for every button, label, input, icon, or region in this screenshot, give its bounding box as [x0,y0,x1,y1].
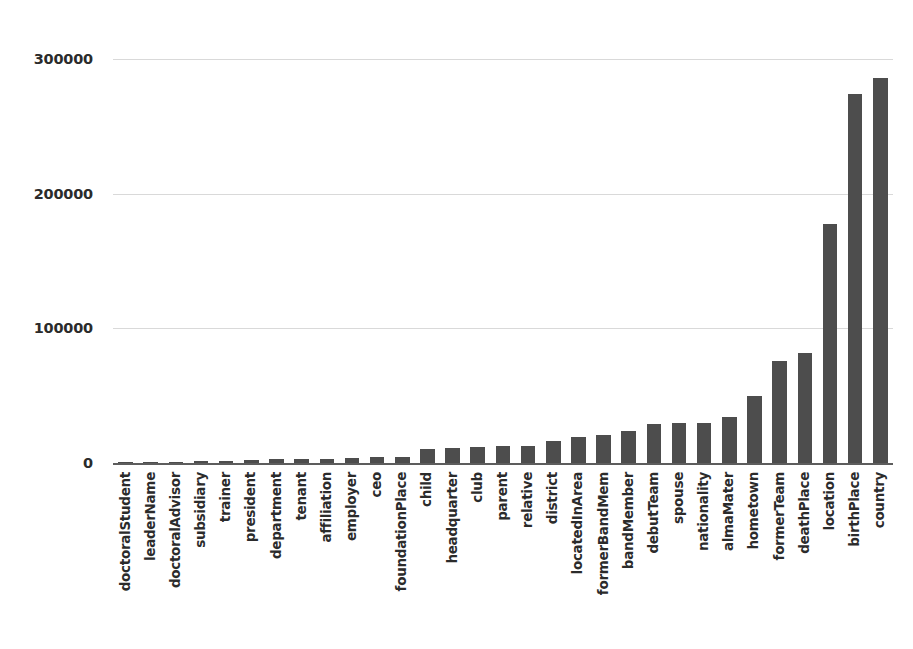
bar-slot [641,46,666,463]
bar-slot [666,46,691,463]
x-tick-label: ceo [370,472,384,498]
bar-deathPlace[interactable] [798,353,813,463]
bar-slot [390,46,415,463]
bar-slot [239,46,264,463]
x-tick-label: debutTeam [647,472,661,554]
bar-foundationPlace[interactable] [395,457,410,463]
bar-slot [490,46,515,463]
x-tick-label: doctoralAdvisor [169,472,183,588]
bar-tenant[interactable] [294,459,309,463]
bar-slot [868,46,893,463]
x-label-slot: president [239,470,264,645]
bar-slot [314,46,339,463]
x-tick-label: hometown [748,472,762,550]
bar-doctoralAdvisor[interactable] [169,462,184,463]
bar-slot [188,46,213,463]
bar-series [113,46,893,463]
bar-slot [365,46,390,463]
x-label-slot: ceo [365,470,390,645]
x-label-slot: bandMember [616,470,641,645]
x-tick-label: relative [521,472,535,528]
y-axis-labels: 0100000200000300000 [0,46,103,463]
bar-country[interactable] [873,78,888,463]
bar-slot [566,46,591,463]
bar-subsidiary[interactable] [194,461,209,463]
bar-slot [264,46,289,463]
x-tick-label: country [874,472,888,528]
x-label-slot: doctoralAdvisor [163,470,188,645]
bar-slot [591,46,616,463]
x-tick-label: department [270,472,284,559]
x-label-slot: department [264,470,289,645]
x-tick-label: child [421,472,435,507]
x-tick-label: foundationPlace [396,472,410,591]
bar-slot [516,46,541,463]
x-label-slot: almaMater [717,470,742,645]
bar-bandMember[interactable] [621,431,636,463]
x-label-slot: nationality [692,470,717,645]
bar-slot [113,46,138,463]
x-label-slot: headquarter [440,470,465,645]
x-tick-label: formerTeam [773,472,787,560]
x-tick-label: almaMater [723,472,737,551]
bar-almaMater[interactable] [722,417,737,463]
bar-debutTeam[interactable] [647,424,662,463]
x-tick-label: subsidiary [194,472,208,548]
x-tick-label: affiliation [320,472,334,543]
x-label-slot: locatedInArea [566,470,591,645]
x-tick-label: locatedInArea [572,472,586,574]
y-tick-label: 300000 [34,51,93,67]
bar-ceo[interactable] [370,457,385,463]
y-tick-label: 100000 [34,320,93,336]
plot-area [113,46,893,463]
x-label-slot: affiliation [314,470,339,645]
x-label-slot: doctoralStudent [113,470,138,645]
bar-doctoralStudent[interactable] [118,462,133,463]
bar-chart: 0100000200000300000 doctoralStudentleade… [0,0,913,649]
x-label-slot: leaderName [138,470,163,645]
bar-location[interactable] [823,224,838,463]
bar-employer[interactable] [345,458,360,463]
bar-locatedInArea[interactable] [571,437,586,463]
y-tick-label: 200000 [34,186,93,202]
bar-nationality[interactable] [697,423,712,463]
bar-affiliation[interactable] [320,459,335,463]
x-label-slot: foundationPlace [390,470,415,645]
x-label-slot: parent [490,470,515,645]
bar-slot [440,46,465,463]
bar-slot [792,46,817,463]
bar-district[interactable] [546,441,561,463]
bar-relative[interactable] [521,446,536,463]
bar-slot [616,46,641,463]
bar-slot [415,46,440,463]
x-tick-label: trainer [219,472,233,522]
bar-leaderName[interactable] [143,462,158,463]
bar-formerTeam[interactable] [772,361,787,463]
x-tick-label: club [471,472,485,503]
bar-birthPlace[interactable] [848,94,863,463]
x-tick-label: district [546,472,560,524]
bar-president[interactable] [244,460,259,463]
bar-slot [289,46,314,463]
bar-trainer[interactable] [219,461,234,463]
x-label-slot: club [465,470,490,645]
x-label-slot: deathPlace [792,470,817,645]
bar-child[interactable] [420,449,435,463]
bar-spouse[interactable] [672,423,687,463]
bar-formerBandMem[interactable] [596,435,611,463]
bar-slot [339,46,364,463]
bar-department[interactable] [269,459,284,463]
x-tick-label: spouse [672,472,686,524]
bar-hometown[interactable] [747,396,762,463]
x-tick-label: deathPlace [798,472,812,554]
x-label-slot: hometown [742,470,767,645]
bar-headquarter[interactable] [445,448,460,463]
x-tick-label: employer [345,472,359,541]
bar-club[interactable] [470,447,485,463]
bar-parent[interactable] [496,446,511,463]
x-tick-label: location [823,472,837,531]
y-tick-label: 0 [83,455,93,471]
bar-slot [163,46,188,463]
bar-slot [717,46,742,463]
bar-slot [138,46,163,463]
